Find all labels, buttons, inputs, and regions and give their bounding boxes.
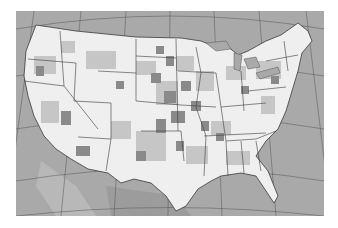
map-caption <box>16 218 324 226</box>
us-county-choropleth-map <box>16 11 324 216</box>
map-frame <box>16 11 324 216</box>
